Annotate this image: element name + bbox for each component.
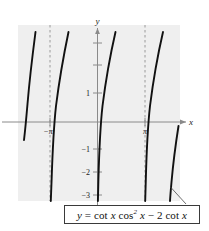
equation-term2-fn: cos (118, 209, 133, 221)
equation-term1-var: x (111, 209, 116, 221)
equation-term3-var: x (182, 209, 187, 221)
equation-lhs: y (77, 209, 82, 221)
equation-minus: − (148, 209, 154, 221)
x-axis-label: x (188, 117, 193, 127)
equation-callout-text: y = cot x cos2 x − 2 cot x (77, 208, 187, 221)
y-tick-label-neg1: −1 (81, 145, 90, 154)
x-axis-arrowhead (180, 120, 186, 125)
equation-callout-box: y = cot x cos2 x − 2 cot x (64, 205, 200, 224)
equation-term2-exponent: 2 (133, 208, 137, 216)
equation-term3-fn: cot (165, 209, 179, 221)
equation-coefficient: 2 (157, 209, 163, 221)
y-tick-label-neg3: −3 (81, 191, 90, 200)
y-tick-label-neg2: −2 (81, 168, 90, 177)
equation-term1-fn: cot (94, 209, 108, 221)
y-tick-label-1: 1 (86, 89, 90, 98)
equation-equals: = (85, 209, 91, 221)
y-axis-label: y (95, 16, 100, 26)
x-tick-label-neg-pi: −π (43, 127, 53, 136)
equation-term2-var: x (140, 209, 145, 221)
figure-plot-area: x y −π π 1 −1 −2 −3 (0, 0, 209, 231)
